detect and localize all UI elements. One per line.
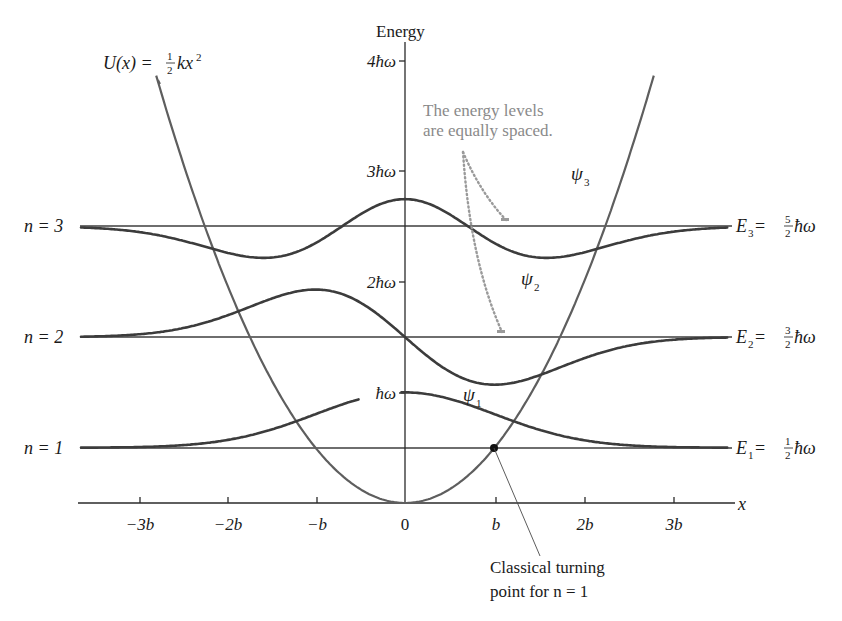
svg-text:ψ: ψ [521,268,534,289]
arrowhead-icon [497,218,509,333]
energy-label-e1: E 1 = 1 2 ħω [735,435,816,461]
svg-text:2: 2 [196,51,202,63]
wavefunction-psi1 [81,392,727,447]
energy-ticks [399,61,405,393]
svg-text:1: 1 [785,435,791,447]
energy-axis-label: Energy [376,22,425,41]
svg-text:2: 2 [748,338,754,350]
svg-text:3: 3 [785,324,791,336]
svg-text:ħω: ħω [794,327,816,347]
svg-text:are equally spaced.: are equally spaced. [423,121,553,140]
x-tick-label-m2b: −2b [214,515,242,534]
svg-text:2: 2 [534,281,540,293]
x-tick-label-m3b: −3b [126,515,154,534]
potential-label: U(x) = 1 2 kx 2 [103,50,202,76]
svg-text:1: 1 [167,50,173,62]
svg-text:5: 5 [785,213,791,225]
psi3-label: ψ 3 [571,163,590,188]
svg-text:E: E [735,216,747,236]
equal-spacing-note: The energy levels are equally spaced. [423,101,553,140]
level-label-n2: n = 2 [24,327,63,347]
turning-point-leader [494,448,540,556]
level-label-n3: n = 3 [24,216,63,236]
tick-label-1hw: ħω [375,384,396,403]
turning-point-note: Classical turning point for n = 1 [490,558,605,601]
spacing-arrow-lower [463,152,502,332]
psi2-label: ψ 2 [521,268,540,293]
svg-text:Classical turning: Classical turning [490,558,605,577]
svg-text:=: = [755,438,765,458]
svg-text:3: 3 [748,227,754,239]
energy-label-e2: E 2 = 3 2 ħω [735,324,816,350]
x-tick-label-mb: −b [307,515,327,534]
svg-text:=: = [755,216,765,236]
svg-text:1: 1 [748,449,754,461]
x-tick-label-3b: 3b [665,515,683,534]
svg-text:ψ: ψ [571,163,584,184]
svg-text:2: 2 [785,338,791,350]
x-tick-label-0: 0 [401,515,410,534]
svg-text:The energy levels: The energy levels [423,101,544,120]
svg-text:ħω: ħω [794,216,816,236]
svg-text:E: E [735,327,747,347]
svg-text:2: 2 [785,449,791,461]
x-tick-label-2b: 2b [577,515,594,534]
svg-text:1: 1 [476,397,482,409]
tick-label-3hw: 3ħω [366,162,396,181]
svg-text:2: 2 [167,64,173,76]
tick-label-4hw: 4ħω [367,52,396,71]
svg-text:ψ: ψ [463,384,476,405]
svg-text:ħω: ħω [794,438,816,458]
harmonic-oscillator-diagram: Energy x 4ħω 3ħω 2ħω ħω −3b −2b −b 0 b 2… [0,0,842,621]
x-axis-label: x [737,494,746,514]
x-tick-label-b: b [492,515,501,534]
level-label-n1: n = 1 [24,438,63,458]
svg-text:3: 3 [584,176,590,188]
svg-text:kx: kx [177,53,193,73]
tick-label-2hw: 2ħω [367,273,396,292]
svg-text:E: E [735,438,747,458]
svg-text:U(x) =: U(x) = [103,53,153,74]
energy-label-e3: E 3 = 5 2 ħω [735,213,816,239]
svg-text:point for n = 1: point for n = 1 [490,582,588,601]
wavefunction-psi3 [81,199,727,258]
svg-text:2: 2 [785,227,791,239]
svg-text:=: = [755,327,765,347]
